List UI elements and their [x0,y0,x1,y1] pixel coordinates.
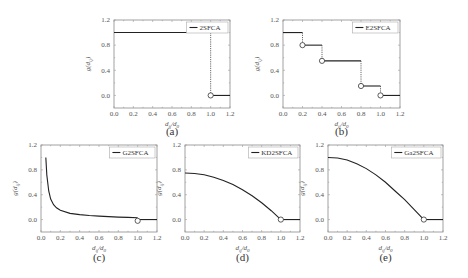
x-tick-label: 0.2 [129,110,138,118]
legend-label: E2SFCA [365,24,390,32]
y-tick-label: 1.2 [28,141,37,149]
y-tick-label: 0.0 [101,92,110,100]
x-tick-label: 1.2 [296,234,305,242]
panel-label: (b) [335,125,348,138]
x-tick-label: 0.8 [257,234,266,242]
x-tick-label: 0.4 [148,110,157,118]
x-tick-label: 1.0 [133,234,142,242]
y-tick-label: 0.8 [315,166,324,174]
legend-label: 2SFCA [200,24,221,32]
x-tick-label: 0.4 [318,110,327,118]
x-tick-label: 0.6 [337,110,346,118]
open-circle-marker [319,58,324,63]
x-tick-label: 0.0 [324,234,333,242]
y-tick-label: 1.2 [315,141,324,149]
y-tick-label: 0.0 [315,216,324,224]
x-tick-label: 1.2 [226,110,235,118]
y-axis-label: g(dij) [298,181,307,196]
distance-decay-curve [185,173,281,220]
open-circle-marker [278,217,283,222]
x-tick-label: 0.6 [238,234,247,242]
panel-label: (a) [166,125,179,138]
y-axis-label: g(dij) [253,56,262,71]
x-tick-label: 0.4 [219,234,228,242]
x-tick-label: 0.8 [400,234,409,242]
x-tick-label: 0.4 [75,234,84,242]
y-tick-label: 0.0 [28,216,37,224]
panel-e: 0.00.20.40.60.81.01.20.00.40.81.2dij/d0g… [298,141,448,264]
x-tick-label: 1.0 [376,110,385,118]
y-tick-label: 0.0 [270,92,279,100]
x-tick-label: 0.6 [95,234,104,242]
figure-canvas: 0.00.20.40.60.81.01.20.00.40.81.2dij/d0g… [0,0,468,278]
y-tick-label: 1.2 [101,16,110,24]
x-tick-label: 1.2 [153,234,162,242]
legend-label: Ga2SFCA [404,149,433,157]
distance-decay-curve [46,157,138,217]
x-tick-label: 0.0 [279,110,288,118]
legend: 2SFCA [187,22,229,33]
x-tick-label: 0.6 [168,110,177,118]
x-tick-label: 0.8 [114,234,123,242]
open-circle-marker [208,93,213,98]
x-tick-label: 0.8 [187,110,196,118]
x-tick-label: 0.0 [37,234,46,242]
y-tick-label: 0.4 [28,191,37,199]
y-tick-label: 0.4 [270,67,279,75]
panel-b: 0.00.20.40.60.81.01.20.00.40.81.2dij/d0g… [253,16,405,138]
distance-decay-curve [328,157,424,219]
legend: E2SFCA [352,22,398,33]
x-tick-label: 1.2 [439,234,448,242]
legend: Ga2SFCA [391,147,441,158]
y-tick-label: 0.4 [172,191,181,199]
y-tick-label: 0.8 [101,41,110,49]
open-circle-marker [300,43,305,48]
x-tick-label: 1.0 [276,234,285,242]
legend: G2SFCA [109,147,155,158]
x-tick-label: 0.2 [56,234,65,242]
x-tick-label: 1.0 [419,234,428,242]
panel-c: 0.00.20.40.60.81.01.20.00.40.81.2dij/d0g… [11,141,162,264]
x-tick-label: 1.2 [396,110,405,118]
y-axis-label: g(dij) [84,56,93,71]
panel-d: 0.00.20.40.60.81.01.20.00.40.81.2dij/d0g… [155,141,305,264]
legend-label: G2SFCA [122,149,148,157]
x-tick-label: 0.4 [362,234,371,242]
x-tick-label: 0.0 [181,234,190,242]
y-tick-label: 1.2 [172,141,181,149]
x-tick-label: 0.8 [357,110,366,118]
legend-label: KD2SFCA [261,149,292,157]
open-circle-marker [421,217,426,222]
panel-a: 0.00.20.40.60.81.01.20.00.40.81.2dij/d0g… [84,16,235,138]
legend: KD2SFCA [248,147,298,158]
x-tick-label: 0.2 [200,234,209,242]
open-circle-marker [358,83,363,88]
y-tick-label: 0.8 [270,41,279,49]
y-axis-label: g(dij) [11,181,20,196]
open-circle-marker [378,93,383,98]
x-tick-label: 0.2 [298,110,307,118]
y-tick-label: 0.8 [172,166,181,174]
panel-label: (d) [236,251,249,264]
y-tick-label: 1.2 [270,16,279,24]
panel-label: (e) [379,251,392,264]
panel-label: (c) [93,251,106,264]
x-tick-label: 0.0 [110,110,119,118]
x-tick-label: 0.6 [381,234,390,242]
y-tick-label: 0.4 [315,191,324,199]
x-tick-label: 1.0 [206,110,215,118]
y-tick-label: 0.0 [172,216,181,224]
open-circle-marker [135,218,140,223]
y-tick-label: 0.4 [101,67,110,75]
x-tick-label: 0.2 [343,234,352,242]
y-axis-label: g(dij) [155,181,164,196]
y-tick-label: 0.8 [28,166,37,174]
